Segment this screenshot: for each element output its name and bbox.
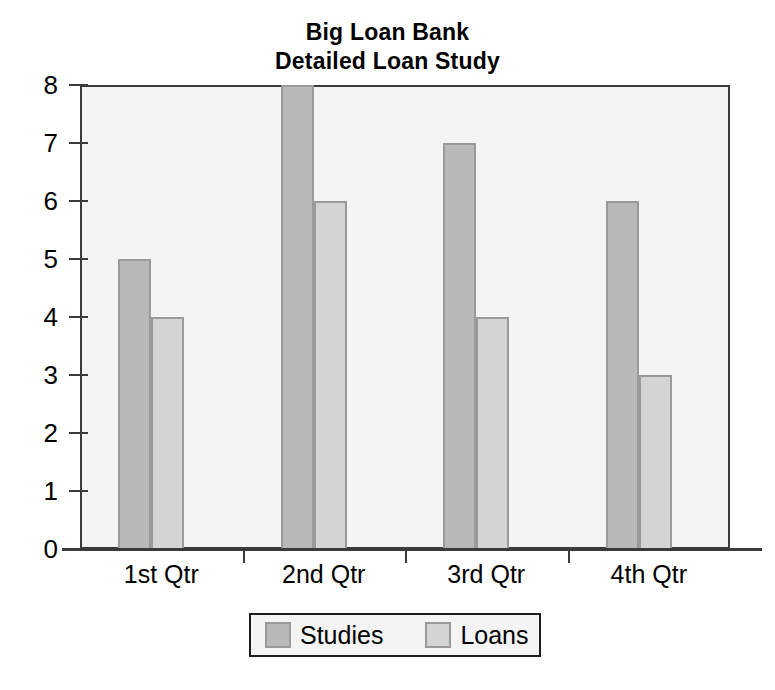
x-category-label: 3rd Qtr	[447, 559, 525, 589]
bars-layer	[80, 85, 730, 549]
bar-loans-4th-qtr	[639, 375, 672, 549]
chart-title-line-1: Big Loan Bank	[0, 18, 775, 47]
y-tick-label: 8	[44, 72, 58, 98]
legend-label: Loans	[460, 621, 528, 649]
x-axis-line	[62, 548, 762, 551]
legend: StudiesLoans	[249, 613, 541, 657]
x-tick-mark	[243, 551, 245, 563]
x-category-label: 1st Qtr	[124, 559, 199, 589]
legend-swatch-loans	[425, 622, 451, 648]
legend-label: Studies	[300, 621, 383, 649]
bar-studies-3rd-qtr	[443, 143, 476, 549]
bar-loans-1st-qtr	[151, 317, 184, 549]
chart-title: Big Loan Bank Detailed Loan Study	[0, 18, 775, 76]
y-tick-label: 0	[44, 536, 58, 562]
y-tick-label: 2	[44, 420, 58, 446]
y-tick-label: 3	[44, 362, 58, 388]
y-tick-label: 4	[44, 304, 58, 330]
bar-chart: Big Loan Bank Detailed Loan Study 012345…	[0, 0, 775, 690]
y-tick-label: 7	[44, 130, 58, 156]
x-tick-mark	[405, 551, 407, 563]
y-axis: 012345678	[0, 85, 80, 549]
bar-studies-1st-qtr	[118, 259, 151, 549]
bar-loans-3rd-qtr	[476, 317, 509, 549]
legend-entry-loans: Loans	[425, 621, 528, 649]
x-category-label: 2nd Qtr	[282, 559, 365, 589]
bar-loans-2nd-qtr	[314, 201, 347, 549]
bar-studies-4th-qtr	[606, 201, 639, 549]
y-tick-label: 5	[44, 246, 58, 272]
x-tick-mark	[568, 551, 570, 563]
legend-swatch-studies	[265, 622, 291, 648]
y-tick-label: 6	[44, 188, 58, 214]
bar-studies-2nd-qtr	[281, 85, 314, 549]
legend-entry-studies: Studies	[265, 621, 383, 649]
x-category-label: 4th Qtr	[611, 559, 687, 589]
chart-title-line-2: Detailed Loan Study	[0, 47, 775, 76]
y-tick-label: 1	[44, 478, 58, 504]
